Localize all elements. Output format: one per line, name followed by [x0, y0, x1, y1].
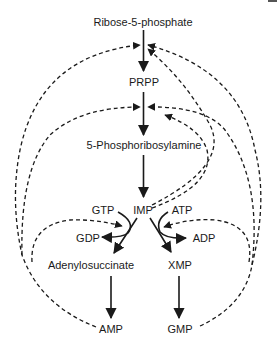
node-amp: AMP [99, 324, 123, 335]
node-ribose-5-phosphate: Ribose-5-phosphate [93, 17, 192, 28]
feedback-gmp-to-step1 [148, 45, 261, 326]
node-5-phosphoribosylamine: 5-Phosphoribosylamine [87, 140, 202, 151]
arrow-imp-adenylosuccinate [114, 218, 137, 253]
arrow-gtp-gdp [102, 212, 130, 237]
node-imp: IMP [133, 205, 153, 216]
feedback-imp-to-step1 [148, 49, 214, 205]
pathway-arrows [0, 0, 277, 352]
node-xmp: XMP [168, 260, 192, 271]
arrow-imp-xmp [150, 218, 171, 252]
purine-pathway-diagram: Ribose-5-phosphate PRPP 5-Phosphoribosyl… [0, 0, 277, 352]
node-adp: ADP [193, 233, 216, 244]
node-gmp: GMP [167, 324, 192, 335]
node-prpp: PRPP [129, 77, 159, 88]
node-adenylosuccinate: Adenylosuccinate [48, 260, 134, 271]
feedback-imp-to-step2 [152, 115, 208, 208]
node-gtp: GTP [92, 205, 115, 216]
corner-mark [268, 0, 277, 2]
feedback-amp-to-step1 [15, 45, 140, 327]
node-atp: ATP [172, 205, 193, 216]
node-gdp: GDP [76, 233, 100, 244]
